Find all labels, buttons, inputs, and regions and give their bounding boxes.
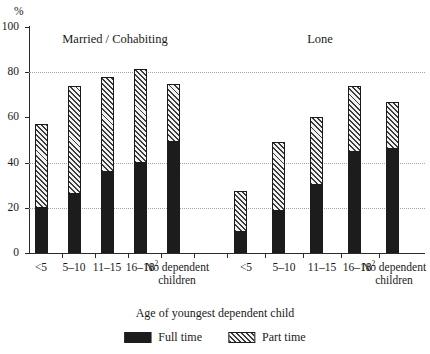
y-tick-label-0: 0: [13, 247, 19, 259]
bar-segment-part-time: [234, 191, 247, 232]
y-tick-100: 100: [25, 27, 29, 28]
group-title-married: Married / Cohabiting: [62, 33, 168, 46]
bar-segment-part-time: [35, 124, 48, 208]
legend-item-full-time: Full time: [124, 331, 202, 343]
x-tick: [379, 253, 380, 258]
legend-swatch-part-time-icon: [228, 332, 255, 343]
x-label-lone-no-dependent-children: No dependent children: [355, 261, 430, 287]
legend-label-full-time: Full time: [158, 331, 202, 343]
x-label-married-no-dependent-children: No dependent children: [138, 261, 216, 287]
x-tick: [194, 253, 195, 258]
bar-segment-full-time: [386, 149, 399, 253]
y-tick-0: 0: [25, 253, 29, 254]
x-tick: [128, 253, 129, 258]
chart-figure: % 100 80 60 40 20 0: [0, 0, 430, 354]
x-tick: [265, 253, 266, 258]
bar-segment-part-time: [134, 69, 147, 163]
x-tick: [62, 253, 63, 258]
x-label-married-5-10: 5–10: [63, 261, 86, 274]
y-tick-60: 60: [25, 117, 29, 118]
bar-segment-full-time: [167, 142, 180, 253]
bar-segment-part-time: [348, 86, 361, 153]
bar-segment-full-time: [134, 163, 147, 253]
plot-area: 100 80 60 40 20 0: [29, 27, 425, 253]
legend-swatch-full-time-icon: [124, 332, 151, 343]
x-tick: [227, 253, 228, 258]
bar-segment-part-time: [167, 84, 180, 143]
gridline-20: [29, 208, 425, 209]
y-tick-label-80: 80: [8, 66, 20, 78]
y-tick-20: 20: [25, 208, 29, 209]
bar-segment-part-time: [386, 102, 399, 150]
bar-segment-part-time: [272, 142, 285, 211]
bar-segment-full-time: [310, 185, 323, 253]
y-tick-label-60: 60: [8, 112, 20, 124]
x-tick: [161, 253, 162, 258]
gridline-40: [29, 163, 425, 164]
x-tick: [95, 253, 96, 258]
x-tick: [303, 253, 304, 258]
bar-segment-full-time: [35, 208, 48, 253]
bar-segment-part-time: [68, 86, 81, 195]
chart-legend: Full time Part time: [124, 331, 305, 343]
y-tick-label-40: 40: [8, 157, 20, 169]
bar-segment-full-time: [234, 232, 247, 254]
bar-segment-full-time: [348, 152, 361, 253]
x-axis-title: Age of youngest dependent child: [136, 307, 295, 319]
x-label-lone-5-10: 5–10: [273, 261, 296, 274]
y-tick-label-20: 20: [8, 202, 20, 214]
group-title-lone: Lone: [307, 33, 333, 46]
x-tick: [341, 253, 342, 258]
y-tick-label-100: 100: [2, 21, 19, 33]
x-label-married-under5: <5: [35, 261, 47, 274]
bar-segment-part-time: [101, 77, 114, 172]
y-tick-40: 40: [25, 163, 29, 164]
gridline-80: [29, 72, 425, 73]
bar-segment-part-time: [310, 117, 323, 185]
bar-segment-full-time: [272, 211, 285, 253]
y-axis-unit-label: %: [14, 6, 24, 18]
x-label-married-11-15: 11–15: [93, 261, 121, 274]
x-label-lone-11-15: 11–15: [308, 261, 336, 274]
y-tick-80: 80: [25, 72, 29, 73]
bar-segment-full-time: [101, 172, 114, 253]
legend-item-part-time: Part time: [228, 331, 306, 343]
bar-segment-full-time: [68, 194, 81, 253]
x-label-lone-under5: <5: [240, 261, 252, 274]
legend-label-part-time: Part time: [262, 331, 306, 343]
